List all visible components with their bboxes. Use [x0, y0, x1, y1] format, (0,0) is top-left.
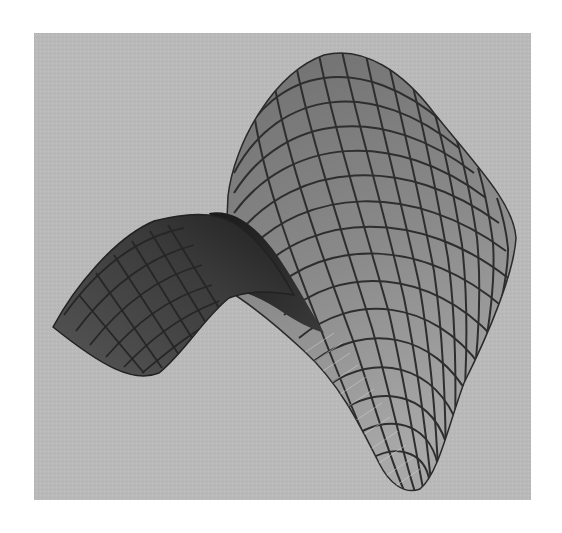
bleed-through-text: [50, 505, 520, 525]
plot-background: [34, 33, 531, 500]
saddle-surface: [34, 33, 531, 500]
surface-plot-figure: [0, 0, 562, 533]
